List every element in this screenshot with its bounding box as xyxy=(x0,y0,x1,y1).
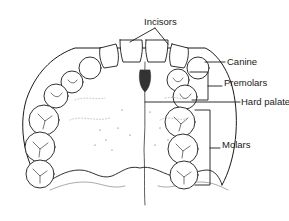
tooth-molar-right-3 xyxy=(170,161,198,189)
label-premolars: Premolars xyxy=(224,78,267,88)
tooth-molar-right-2 xyxy=(168,134,198,164)
tooth-molar-left-2 xyxy=(25,132,55,162)
label-molars: Molars xyxy=(222,140,251,150)
label-hard-palate: Hard palate xyxy=(241,97,289,107)
tooth-incisor-central-left xyxy=(120,40,142,62)
tooth-premolar-left-2 xyxy=(44,84,68,108)
tooth-incisor-central-right xyxy=(146,40,168,62)
dental-arch-diagram xyxy=(0,0,289,221)
label-incisors: Incisors xyxy=(144,17,177,27)
tooth-canine-left xyxy=(79,57,101,79)
tooth-molar-left-3 xyxy=(26,160,54,188)
tooth-incisor-lateral-right xyxy=(170,44,189,68)
tooth-canine-right xyxy=(187,57,209,79)
incisive-papilla xyxy=(139,70,151,92)
tooth-premolar-right-2 xyxy=(173,85,197,109)
palate-stipple xyxy=(94,109,168,150)
tooth-incisor-lateral-left xyxy=(100,44,119,68)
tooth-molar-right-1 xyxy=(165,107,195,137)
label-canine: Canine xyxy=(227,57,257,67)
